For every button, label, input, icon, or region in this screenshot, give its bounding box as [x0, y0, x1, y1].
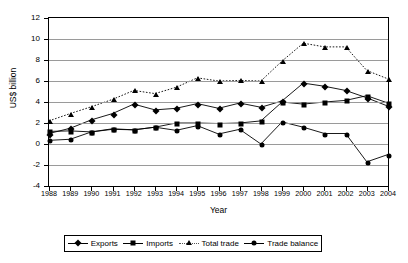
x-tick-label: 2003 — [359, 190, 375, 198]
data-point-square — [281, 101, 286, 106]
y-tick-mark — [44, 39, 48, 40]
data-point-square — [48, 130, 53, 135]
legend-item-imports[interactable]: Imports — [123, 239, 173, 248]
gridline — [49, 39, 388, 40]
x-axis-tick-labels: 1988198919901991199219931994199519961997… — [48, 190, 389, 204]
x-tick-label: 2004 — [380, 190, 396, 198]
y-tick-label: 10 — [31, 35, 40, 43]
x-tick-mark — [155, 187, 156, 191]
data-point-triangle — [68, 112, 74, 117]
legend-label: Exports — [91, 239, 118, 248]
x-tick-mark — [240, 187, 241, 191]
x-tick-label: 1990 — [83, 190, 99, 198]
y-tick-label: -4 — [33, 182, 40, 190]
x-tick-label: 1999 — [274, 190, 290, 198]
legend-item-exports[interactable]: Exports — [68, 239, 118, 248]
x-tick-mark — [70, 187, 71, 191]
x-tick-label: 1996 — [211, 190, 227, 198]
x-tick-label: 2002 — [338, 190, 354, 198]
data-point-triangle — [89, 105, 95, 110]
diamond-icon — [68, 239, 88, 248]
data-point-triangle — [386, 77, 392, 82]
data-point-circle — [90, 130, 95, 135]
data-point-triangle — [111, 97, 117, 102]
x-tick-mark — [303, 187, 304, 191]
y-tick-label: 0 — [36, 140, 40, 148]
data-point-triangle — [301, 41, 307, 46]
data-point-square — [323, 101, 328, 106]
data-point-triangle — [322, 45, 328, 50]
data-point-triangle — [217, 79, 223, 84]
circle-icon — [244, 239, 264, 248]
gridline — [49, 165, 388, 166]
data-point-square — [175, 122, 180, 127]
data-point-circle — [196, 124, 201, 129]
y-axis-title: US$ billion — [8, 53, 18, 123]
data-point-square — [217, 122, 222, 127]
chart-legend: ExportsImportsTotal tradeTrade balance — [64, 235, 322, 252]
legend-label: Imports — [146, 239, 173, 248]
data-point-triangle — [153, 92, 159, 97]
data-point-square — [238, 122, 243, 127]
y-tick-mark — [44, 81, 48, 82]
x-tick-label: 1995 — [189, 190, 205, 198]
data-point-circle — [153, 126, 158, 131]
legend-label: Trade balance — [267, 239, 318, 248]
x-tick-mark — [261, 187, 262, 191]
data-point-circle — [323, 132, 328, 137]
data-point-square — [365, 94, 370, 99]
gridline — [49, 144, 388, 145]
y-tick-label: 6 — [36, 77, 40, 85]
y-tick-label: 8 — [36, 56, 40, 64]
data-point-circle — [259, 143, 264, 148]
x-tick-mark — [49, 187, 50, 191]
data-point-square — [344, 99, 349, 104]
data-point-circle — [387, 153, 392, 158]
data-point-circle — [111, 127, 116, 132]
data-point-circle — [175, 129, 180, 134]
y-tick-mark — [44, 186, 48, 187]
x-tick-label: 1992 — [126, 190, 142, 198]
data-point-square — [387, 102, 392, 107]
data-point-square — [302, 103, 307, 108]
data-point-square — [69, 129, 74, 134]
x-tick-mark — [367, 187, 368, 191]
y-tick-label: -2 — [33, 161, 40, 169]
data-point-triangle — [195, 76, 201, 81]
y-tick-mark — [44, 165, 48, 166]
x-tick-label: 1991 — [105, 190, 121, 198]
y-axis-tick-labels: -4-2024681012 — [0, 0, 46, 204]
gridline — [49, 60, 388, 61]
data-point-circle — [69, 138, 74, 143]
x-tick-label: 2000 — [295, 190, 311, 198]
legend-item-trade-balance[interactable]: Trade balance — [244, 239, 318, 248]
data-point-triangle — [344, 45, 350, 50]
x-tick-label: 1993 — [147, 190, 163, 198]
gridline — [49, 102, 388, 103]
x-tick-label: 1988 — [41, 190, 57, 198]
plot-area — [48, 17, 389, 187]
legend-item-total-trade[interactable]: Total trade — [179, 239, 239, 248]
x-axis-title: Year — [48, 205, 389, 215]
data-point-circle — [132, 128, 137, 133]
data-point-triangle — [238, 78, 244, 83]
data-point-circle — [217, 133, 222, 138]
triangle-icon — [179, 239, 199, 248]
legend-label: Total trade — [202, 239, 239, 248]
x-tick-mark — [197, 187, 198, 191]
x-tick-label: 1994 — [168, 190, 184, 198]
x-tick-mark — [113, 187, 114, 191]
x-tick-label: 1998 — [253, 190, 269, 198]
y-tick-mark — [44, 60, 48, 61]
x-tick-mark — [346, 187, 347, 191]
data-point-circle — [365, 160, 370, 165]
x-tick-label: 2001 — [316, 190, 332, 198]
data-point-circle — [281, 120, 286, 125]
data-point-triangle — [132, 88, 138, 93]
data-point-circle — [48, 139, 53, 144]
x-tick-mark — [134, 187, 135, 191]
data-point-triangle — [280, 59, 286, 64]
x-tick-mark — [91, 187, 92, 191]
y-tick-label: 12 — [31, 14, 40, 22]
x-tick-label: 1989 — [62, 190, 78, 198]
